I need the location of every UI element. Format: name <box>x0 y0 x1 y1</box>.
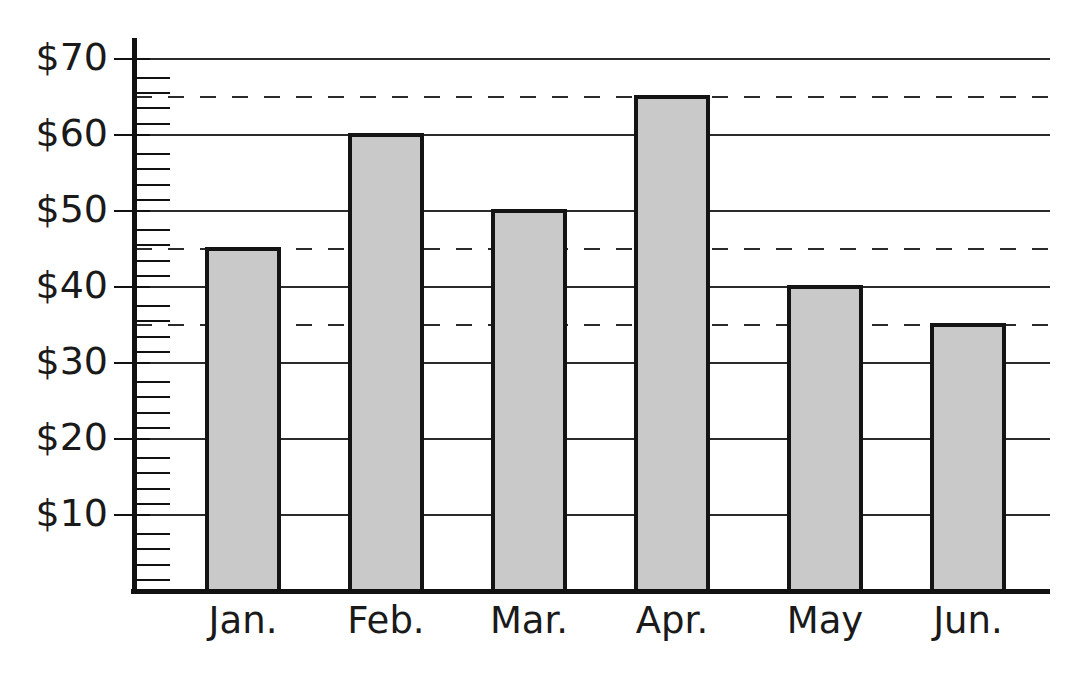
y-tick-label-70: $70 <box>35 35 108 79</box>
bar-chart-figure: $70 $60 $50 $40 $30 $20 $10 Jan. Feb. Ma… <box>0 0 1087 683</box>
bar-jan[interactable] <box>207 249 279 591</box>
y-tick-label-10: $10 <box>35 491 108 535</box>
x-tick-label-jun: Jun. <box>931 599 1003 642</box>
x-tick-label-mar: Mar. <box>490 599 568 642</box>
bar-jun[interactable] <box>932 325 1004 591</box>
x-tick-label-may: May <box>787 599 864 642</box>
x-tick-label-jan: Jan. <box>207 599 278 642</box>
y-tick-label-40: $40 <box>35 263 108 307</box>
y-tick-label-60: $60 <box>35 111 108 155</box>
bar-apr[interactable] <box>636 97 708 591</box>
bar-feb[interactable] <box>350 135 422 591</box>
bar-may[interactable] <box>789 287 861 591</box>
y-tick-label-20: $20 <box>35 415 108 459</box>
x-tick-label-feb: Feb. <box>347 599 424 642</box>
y-tick-label-50: $50 <box>35 187 108 231</box>
chart-canvas: $70 $60 $50 $40 $30 $20 $10 Jan. Feb. Ma… <box>0 0 1087 683</box>
x-tick-label-apr: Apr. <box>636 599 708 642</box>
bar-mar[interactable] <box>493 211 565 591</box>
y-tick-label-30: $30 <box>35 339 108 383</box>
